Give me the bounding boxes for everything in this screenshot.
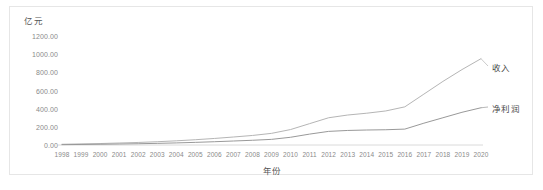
x-axis-tick-label: 2004 bbox=[169, 151, 184, 158]
x-axis-tick-label: 2000 bbox=[93, 151, 108, 158]
x-axis-tick-label: 2010 bbox=[283, 151, 298, 158]
series-label-net-profit: 净利润 bbox=[492, 102, 520, 114]
x-axis-tick-label: 2012 bbox=[321, 151, 336, 158]
x-axis-tick-label: 2007 bbox=[226, 151, 241, 158]
x-axis-tick-label: 2005 bbox=[188, 151, 203, 158]
x-axis-tick-label: 2016 bbox=[397, 151, 412, 158]
series-label-revenue: 收入 bbox=[492, 61, 511, 73]
x-axis-ticks: 1998199920002001200220032004200520062007… bbox=[0, 0, 543, 190]
x-axis-tick-label: 2017 bbox=[416, 151, 431, 158]
line-chart: 亿元 1200.001000.00800.00600.00400.00200.0… bbox=[0, 0, 543, 190]
x-axis-tick-label: 2015 bbox=[378, 151, 393, 158]
x-axis-tick-label: 2006 bbox=[207, 151, 222, 158]
x-axis-tick-label: 2018 bbox=[435, 151, 450, 158]
x-axis-tick-label: 2003 bbox=[150, 151, 165, 158]
x-axis-tick-label: 2013 bbox=[340, 151, 355, 158]
x-axis-tick-label: 2014 bbox=[359, 151, 374, 158]
x-axis-tick-label: 1999 bbox=[74, 151, 89, 158]
x-axis-tick-label: 2009 bbox=[264, 151, 279, 158]
x-axis-tick-label: 2002 bbox=[131, 151, 146, 158]
x-axis-tick-label: 2001 bbox=[112, 151, 127, 158]
x-axis-title: 年份 bbox=[263, 164, 281, 176]
x-axis-tick-label: 2008 bbox=[245, 151, 260, 158]
x-axis-tick-label: 2019 bbox=[455, 151, 470, 158]
x-axis-tick-label: 2011 bbox=[302, 151, 316, 158]
x-axis-tick-label: 2020 bbox=[474, 151, 489, 158]
x-axis-tick-label: 1998 bbox=[55, 151, 70, 158]
